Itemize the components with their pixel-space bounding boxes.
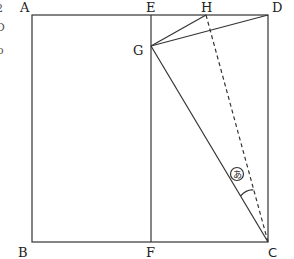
label-g: G	[133, 43, 143, 58]
segment-gh	[151, 15, 206, 46]
angle-label: あ	[233, 170, 242, 180]
label-b: B	[18, 245, 28, 259]
label-a: A	[19, 0, 30, 15]
label-e: E	[146, 0, 156, 15]
label-h: H	[201, 0, 212, 15]
label-d: D	[272, 0, 282, 15]
geometry-figure: あ A E H D G B F C 2 D o	[0, 0, 294, 259]
segment-hc-dashed	[206, 15, 268, 242]
label-f: F	[146, 245, 155, 259]
margin-artifact: D	[0, 21, 5, 34]
label-c: C	[268, 245, 277, 259]
margin-artifact: o	[0, 44, 4, 57]
segment-gc	[151, 46, 268, 242]
rectangle-abcd	[32, 15, 268, 242]
margin-artifact: 2	[0, 2, 3, 15]
segment-gd	[151, 15, 268, 46]
angle-arc	[241, 190, 254, 196]
